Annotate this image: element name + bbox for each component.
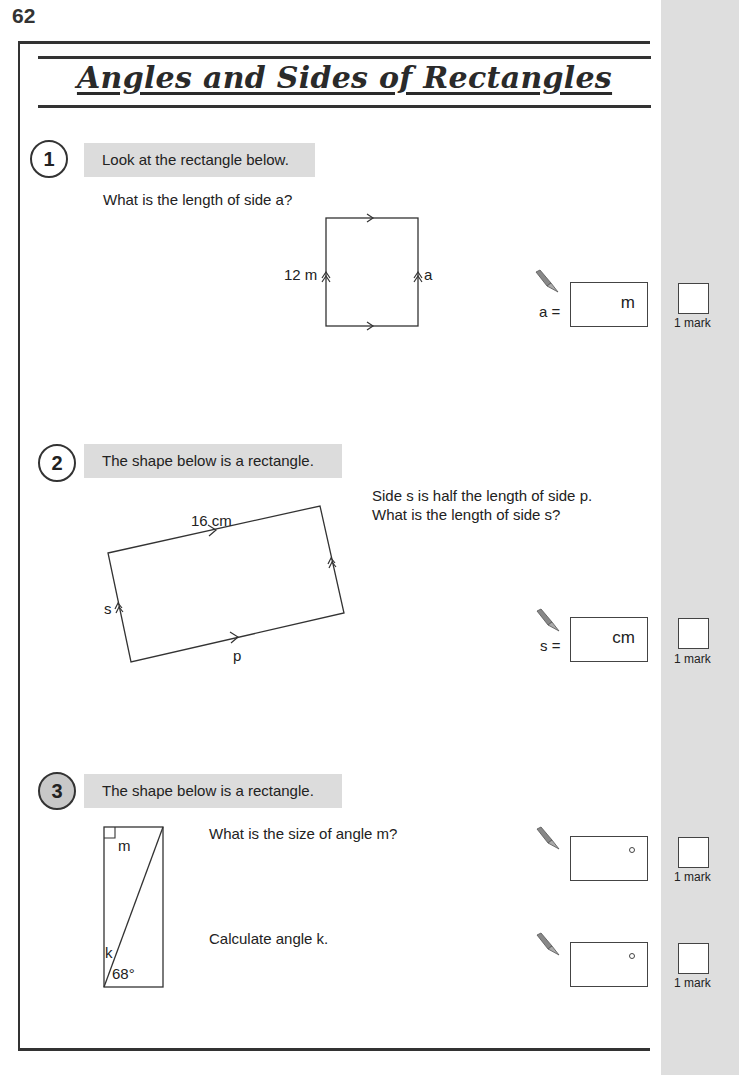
question-3-angle-m-label: m	[118, 836, 131, 856]
question-3-angle-k-label: k	[105, 943, 113, 963]
degree-symbol	[629, 953, 635, 959]
mark-label-3a: 1 mark	[674, 870, 711, 884]
question-3-rectangle-diagram	[0, 0, 739, 1075]
pen-icon	[535, 826, 561, 852]
mark-label-3b: 1 mark	[674, 976, 711, 990]
answer-3a-input[interactable]	[570, 836, 648, 881]
question-3-given-angle-label: 68°	[112, 964, 135, 984]
answer-3b-input[interactable]	[570, 942, 648, 987]
degree-symbol	[629, 847, 635, 853]
mark-box-3a[interactable]	[678, 837, 709, 868]
pen-icon	[535, 932, 561, 958]
mark-box-3b[interactable]	[678, 943, 709, 974]
